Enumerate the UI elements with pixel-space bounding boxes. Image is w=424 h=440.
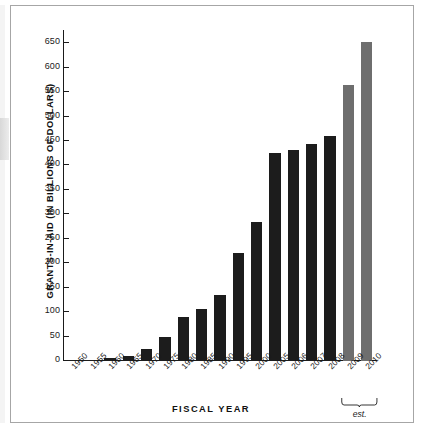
figure-root: GRANTS-IN-AID (IN BILLIONS OF DOLLARS) 0… bbox=[0, 0, 424, 440]
bar bbox=[233, 253, 244, 362]
y-axis-tick-label: 250 bbox=[30, 232, 60, 242]
plot-area bbox=[64, 30, 376, 361]
bar bbox=[196, 309, 207, 361]
y-axis-tick-label: 300 bbox=[30, 207, 60, 217]
page-edge-artifact bbox=[0, 5, 5, 423]
y-axis-tick-label: 0 bbox=[30, 354, 60, 364]
y-axis-tick-label: 650 bbox=[30, 36, 60, 46]
y-axis-tick-label: 400 bbox=[30, 158, 60, 168]
y-axis-tick-label: 500 bbox=[30, 110, 60, 120]
bar bbox=[361, 42, 372, 361]
y-axis-tick-label: 200 bbox=[30, 256, 60, 266]
y-axis-tick-label: 50 bbox=[30, 330, 60, 340]
bar bbox=[269, 153, 280, 361]
y-axis-tick-label: 550 bbox=[30, 85, 60, 95]
estimate-bracket bbox=[341, 398, 378, 407]
y-axis-tick-label: 100 bbox=[30, 305, 60, 315]
estimate-label: est. bbox=[341, 409, 378, 419]
bar bbox=[251, 222, 262, 361]
bar bbox=[324, 136, 335, 361]
y-axis-tick-label: 450 bbox=[30, 134, 60, 144]
bar bbox=[343, 85, 354, 361]
x-axis-title: FISCAL YEAR bbox=[96, 404, 326, 414]
page-edge-tab-artifact bbox=[0, 118, 9, 160]
y-axis-tick-label: 600 bbox=[30, 61, 60, 71]
y-axis-tick-label: 350 bbox=[30, 183, 60, 193]
bar bbox=[306, 144, 317, 361]
y-axis-tick-labels: 050100150200250300350400450500550600650 bbox=[28, 0, 60, 440]
bar bbox=[214, 295, 225, 361]
y-axis-tick-label: 150 bbox=[30, 281, 60, 291]
bar bbox=[288, 150, 299, 361]
